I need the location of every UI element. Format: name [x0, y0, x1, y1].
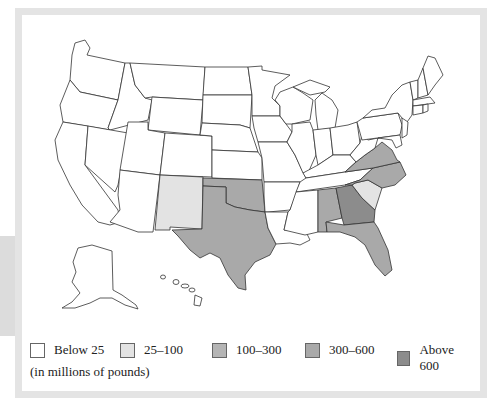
legend-swatch-above-600 [397, 351, 410, 366]
state-rhode-island [423, 104, 428, 113]
legend-item-25-100: 25–100 [120, 342, 183, 358]
state-north-dakota [203, 67, 252, 95]
state-kansas [212, 150, 262, 180]
legend-item-300-600: 300–600 [305, 342, 375, 358]
state-hawaii [161, 275, 203, 306]
legend-swatch-300-600 [305, 343, 320, 358]
map-legend: Below 25 25–100 100–300 300–600 Above 60… [30, 342, 470, 362]
legend-item-above-600: Above 600 [397, 342, 470, 374]
state-new-jersey [402, 118, 408, 138]
state-florida [326, 222, 392, 276]
state-connecticut [413, 105, 423, 115]
legend-label: Below 25 [54, 342, 104, 358]
legend-label: 300–600 [329, 342, 375, 358]
legend-item-below-25: Below 25 [30, 342, 104, 358]
legend-swatch-100-300 [212, 343, 227, 358]
legend-swatch-below-25 [30, 343, 45, 358]
state-wyoming [148, 97, 203, 135]
legend-label: Above 600 [419, 342, 470, 374]
state-new-mexico [155, 175, 203, 230]
legend-label: 100–300 [236, 342, 282, 358]
units-note: (in millions of pounds) [30, 364, 150, 380]
state-colorado [160, 133, 212, 177]
legend-swatch-25-100 [120, 343, 135, 358]
legend-label: 25–100 [144, 342, 183, 358]
state-alaska [62, 245, 138, 309]
legend-item-100-300: 100–300 [212, 342, 282, 358]
